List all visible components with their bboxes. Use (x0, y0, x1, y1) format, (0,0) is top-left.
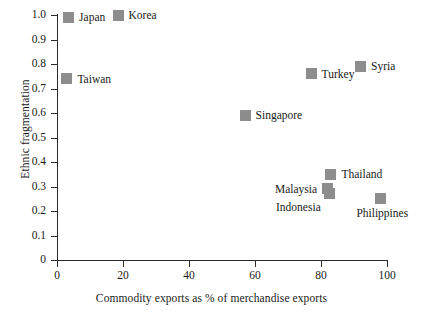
data-point-marker[interactable] (113, 10, 124, 21)
data-point-label: Syria (371, 60, 395, 72)
y-tick-label: 0.9 (16, 34, 46, 46)
data-point-marker[interactable] (325, 169, 336, 180)
data-point-marker[interactable] (63, 12, 74, 23)
x-tick (387, 261, 388, 267)
y-tick-label-text: 0.1 (16, 230, 46, 242)
scatter-chart: Ethnic fragmentation 00.10.20.30.40.50.6… (0, 0, 423, 320)
data-point-marker[interactable] (375, 193, 386, 204)
x-tick (123, 261, 124, 267)
data-point-label: Turkey (322, 68, 355, 80)
data-point-marker[interactable] (355, 61, 366, 72)
x-tick-label-text: 20 (103, 269, 143, 282)
x-tick (255, 261, 256, 267)
x-tick-label-text: 80 (301, 269, 341, 282)
data-point-marker[interactable] (306, 68, 317, 79)
y-tick-label-text: 0.3 (16, 181, 46, 193)
y-tick-label: 0.8 (16, 58, 46, 70)
data-point-label: Philippines (356, 207, 408, 219)
x-tick-label: 0 (37, 269, 77, 283)
y-tick-label-text: 0.4 (16, 156, 46, 168)
y-tick-label: 0.2 (16, 205, 46, 217)
data-point-label: Taiwan (77, 73, 111, 85)
y-tick-label: 0.1 (16, 230, 46, 242)
y-tick-label-text: 0 (16, 254, 46, 266)
y-tick-label-text: 0.9 (16, 34, 46, 46)
x-tick-label: 80 (301, 269, 341, 283)
data-point-label: Singapore (256, 109, 303, 121)
x-tick-label: 20 (103, 269, 143, 283)
y-tick-label-text: 1.0 (16, 9, 46, 21)
x-tick (321, 261, 322, 267)
x-tick-label: 60 (235, 269, 275, 283)
y-tick-label: 0 (16, 254, 46, 266)
x-tick-label-text: 40 (169, 269, 209, 282)
x-tick-label-text: 60 (235, 269, 275, 282)
data-point-marker[interactable] (240, 110, 251, 121)
x-tick (189, 261, 190, 267)
data-point-label: Korea (129, 9, 157, 21)
data-point-label: Japan (79, 11, 105, 23)
data-point-label: Malaysia (275, 183, 317, 195)
y-tick-label: 0.4 (16, 156, 46, 168)
x-tick-label: 100 (367, 269, 407, 283)
x-tick-label: 40 (169, 269, 209, 283)
plot-area: JapanKoreaTaiwanTurkeySyriaSingaporeThai… (57, 15, 387, 260)
y-tick-label-text: 0.2 (16, 205, 46, 217)
y-tick-label-text: 0.6 (16, 107, 46, 119)
y-tick-label-text: 0.7 (16, 83, 46, 95)
x-axis-line (57, 260, 388, 261)
y-tick-label: 0.3 (16, 181, 46, 193)
x-tick (57, 261, 58, 267)
y-tick-label: 1.0 (16, 9, 46, 21)
x-tick-label-text: 0 (37, 269, 77, 282)
y-tick-label-text: 0.5 (16, 132, 46, 144)
y-tick-label: 0.6 (16, 107, 46, 119)
y-tick-label: 0.5 (16, 132, 46, 144)
y-tick-label: 0.7 (16, 83, 46, 95)
data-point-label: Thailand (341, 168, 382, 180)
data-point-label: Indonesia (276, 201, 321, 213)
y-tick-label-text: 0.8 (16, 58, 46, 70)
x-tick-label-text: 100 (367, 269, 407, 282)
data-point-marker[interactable] (61, 73, 72, 84)
x-axis-title: Commodity exports as % of merchandise ex… (0, 292, 423, 304)
data-point-marker[interactable] (324, 188, 335, 199)
